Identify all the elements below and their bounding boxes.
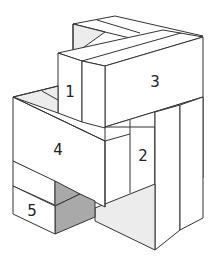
block-3-label: 3 [150, 73, 160, 91]
block-1: 1 [58, 53, 105, 128]
block-5-label: 5 [27, 202, 37, 220]
block-assembly-diagram: 3 1 2 4 [0, 0, 214, 257]
block-1-side-face [82, 61, 105, 128]
right-column-outer-face [180, 97, 203, 230]
block-1-label: 1 [65, 83, 75, 101]
block-2-label: 2 [138, 147, 148, 165]
block-4-joint [105, 134, 130, 141]
block-4-label: 4 [53, 141, 63, 159]
right-column-lower-face [155, 105, 180, 250]
